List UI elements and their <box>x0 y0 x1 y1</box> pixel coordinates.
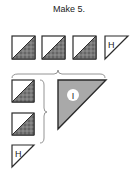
hst-unit-top-2 <box>42 36 65 59</box>
hst-unit-left-1 <box>12 80 34 102</box>
hst-unit-top-1 <box>12 36 35 59</box>
label-h-left: H <box>15 149 22 159</box>
horizontal-brace <box>12 70 105 78</box>
triangle-i-large <box>58 80 106 129</box>
hst-unit-top-3 <box>73 36 96 59</box>
quilt-assembly-diagram: H H I <box>0 0 138 170</box>
label-i: I <box>72 91 75 101</box>
vertical-brace <box>40 80 47 143</box>
label-h-top: H <box>108 40 115 50</box>
hst-unit-left-2 <box>12 113 34 135</box>
